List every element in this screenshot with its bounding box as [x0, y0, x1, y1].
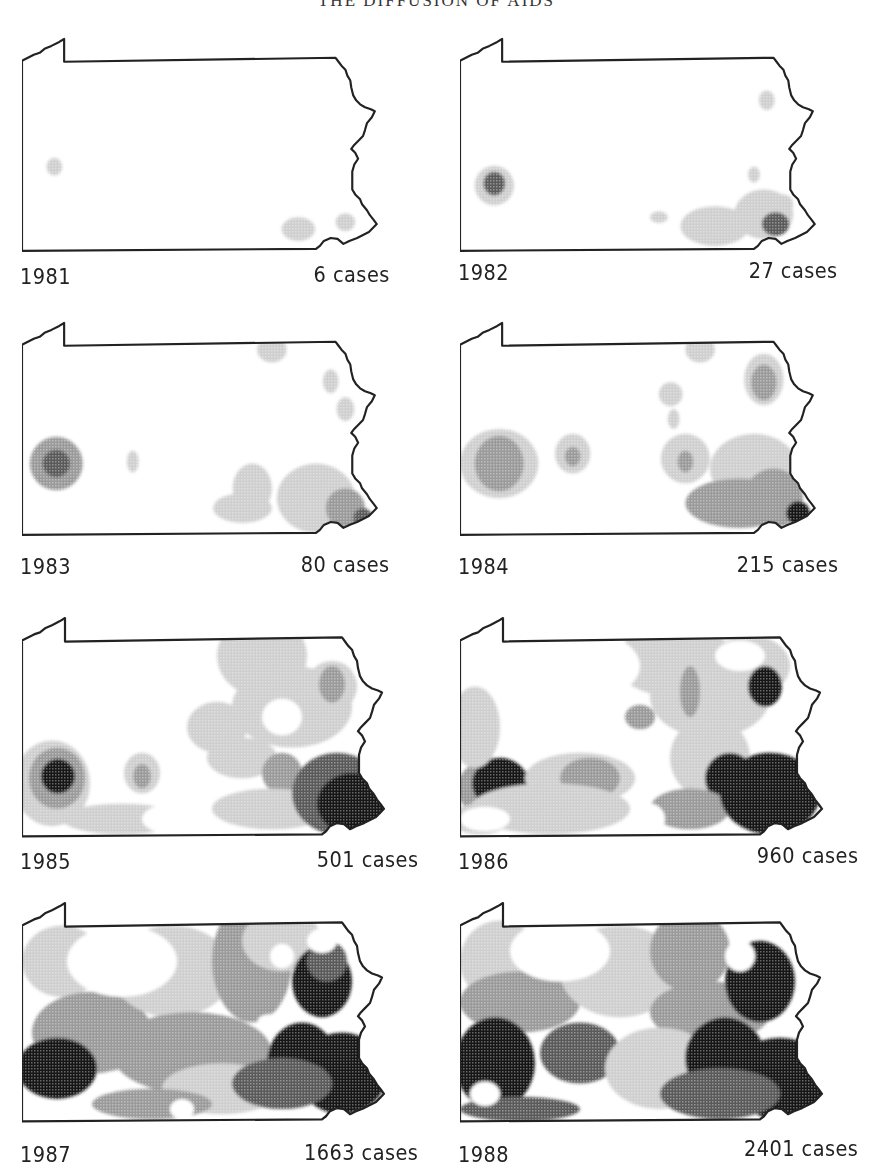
case-count-label: 6 cases: [314, 263, 390, 287]
case-count-label: 960 cases: [756, 844, 858, 868]
case-count-label: 501 cases: [316, 848, 418, 872]
map-panel-1987: [22, 900, 452, 1173]
page-title: THE DIFFUSION OF AIDS: [0, 0, 873, 11]
pennsylvania-map: [460, 320, 873, 580]
year-label: 1987: [20, 1143, 71, 1167]
case-count-label: 27 cases: [749, 259, 838, 283]
year-label: 1982: [458, 261, 509, 285]
pennsylvania-map: [22, 615, 452, 875]
pennsylvania-map: [460, 900, 873, 1160]
pennsylvania-map: [22, 900, 452, 1160]
case-count-label: 215 cases: [736, 553, 838, 577]
case-count-label: 80 cases: [301, 553, 390, 577]
year-label: 1986: [458, 850, 509, 874]
year-label: 1984: [458, 555, 509, 579]
year-label: 1983: [20, 555, 71, 579]
map-panel-1988: [460, 900, 873, 1173]
pennsylvania-map: [22, 320, 452, 580]
pennsylvania-map: [22, 36, 452, 296]
case-count-label: 2401 cases: [744, 1137, 858, 1161]
pennsylvania-map: [460, 615, 873, 875]
year-label: 1988: [458, 1143, 509, 1167]
case-count-label: 1663 cases: [304, 1141, 418, 1165]
year-label: 1985: [20, 850, 71, 874]
pennsylvania-map: [460, 36, 873, 296]
year-label: 1981: [20, 265, 71, 289]
